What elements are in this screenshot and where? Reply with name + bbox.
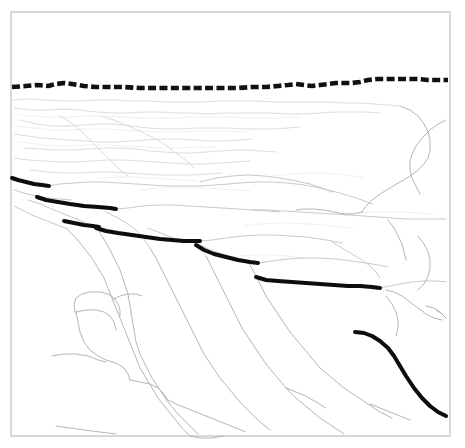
figure-root (0, 0, 465, 448)
canyon-sketch-svg (0, 0, 465, 448)
